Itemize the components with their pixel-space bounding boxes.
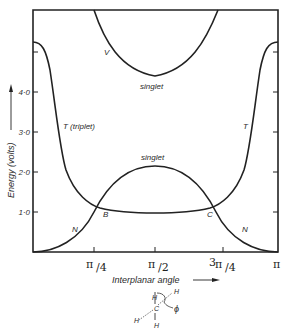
annotation-singlet-top: singlet <box>140 82 164 91</box>
annotation-C: C <box>207 210 213 219</box>
y-axis-title: Energy (volts) <box>6 84 16 198</box>
ytick-label-3: 3·0 <box>18 128 30 137</box>
annotation-V: V <box>104 48 110 57</box>
svg-text:π: π <box>215 258 222 271</box>
xtick-label-pi-4: π /4 <box>86 258 107 274</box>
annotation-singlet-mid: singlet <box>141 153 165 162</box>
x-axis-arrow-icon <box>212 278 220 282</box>
energy-chart: 1·0 2·0 3·0 4·0 Energy (volts) π /4 π /2… <box>0 0 288 332</box>
svg-text:π: π <box>148 258 155 271</box>
ytick-label-1: 1·0 <box>18 208 30 217</box>
svg-text:/4: /4 <box>225 261 236 274</box>
y-axis-label: Energy (volts) <box>6 142 16 198</box>
xtick-label-pi: π <box>273 258 280 271</box>
curve-V-singlet <box>94 10 218 76</box>
x-axis-title: Interplanar angle <box>112 275 220 285</box>
xtick-label-3pi-4: 3 π /4 <box>209 256 236 274</box>
xtick-label-pi-2: π /2 <box>148 258 169 274</box>
molecule-phi: ϕ <box>174 304 179 314</box>
molecule-H-right: H <box>174 288 180 295</box>
ytick-label-2: 2·0 <box>17 168 30 177</box>
x-axis-label: Interplanar angle <box>112 275 180 285</box>
molecule-C: C <box>154 305 160 312</box>
plot-frame <box>33 10 278 252</box>
molecule-H-bottom: H <box>154 322 160 329</box>
ytick-label-4: 4·0 <box>18 88 30 97</box>
molecule-H-left: H <box>134 317 140 324</box>
molecule-diagram: H H C H H ϕ <box>134 288 180 329</box>
svg-text:π: π <box>86 258 93 271</box>
y-axis-arrow-icon <box>9 84 13 92</box>
annotation-T-right: T <box>243 122 249 131</box>
annotation-N-right: N <box>242 225 248 234</box>
annotation-N-left: N <box>72 225 78 234</box>
annotation-T-triplet: T (triplet) <box>63 122 95 131</box>
svg-text:/4: /4 <box>96 261 107 274</box>
annotation-B: B <box>103 210 109 219</box>
svg-text:/2: /2 <box>158 261 169 274</box>
